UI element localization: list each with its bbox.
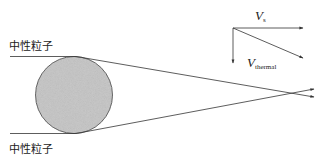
vthermal-label: Vthermal bbox=[247, 55, 276, 71]
sphere bbox=[36, 57, 113, 134]
resultant-velocity-arrow bbox=[233, 28, 303, 58]
velocity-vector-diagram bbox=[233, 28, 303, 63]
vthermal-label-sub: thermal bbox=[255, 63, 276, 71]
neutral-particle-label-bottom: 中性粒子 bbox=[9, 142, 53, 156]
vs-label-sub: s bbox=[263, 16, 266, 24]
diagram-canvas: 中性粒子 中性粒子 Vs Vthermal bbox=[0, 0, 323, 160]
vs-label: Vs bbox=[255, 8, 266, 24]
neutral-particle-label-top: 中性粒子 bbox=[9, 39, 53, 53]
